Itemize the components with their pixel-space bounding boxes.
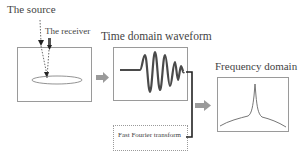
time-waveform: [120, 52, 184, 92]
diagram-graphics: [0, 0, 302, 158]
arrow-medium-to-time: [96, 72, 109, 83]
arrow-to-frequency: [195, 100, 211, 111]
receiver-icon: [47, 38, 52, 78]
frequency-spectrum: [220, 84, 286, 127]
fft-connector: [186, 72, 192, 137]
reflector-ellipse: [32, 76, 82, 84]
